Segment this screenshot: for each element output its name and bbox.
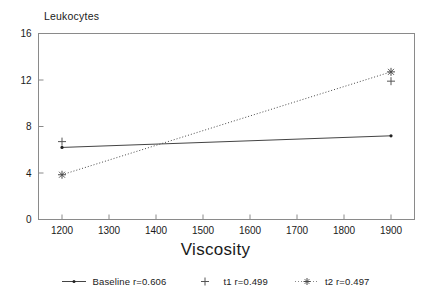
series-baseline: [60, 134, 392, 149]
x-tick-label: 1600: [239, 225, 262, 236]
legend-item-t1: t1 r=0.499: [192, 276, 268, 287]
data-series-layer: [58, 68, 395, 179]
y-tick-label: 8: [26, 121, 32, 132]
legend-key-t1-icon: [192, 276, 218, 287]
legend-key-baseline-icon: [61, 276, 87, 287]
x-tick-label: 1300: [98, 225, 121, 236]
legend-label-t1: t1 r=0.499: [223, 276, 268, 287]
y-tick-label: 16: [20, 28, 32, 39]
x-axis-ticks: 12001300140015001600170018001900: [51, 215, 403, 236]
legend-item-t2: t2 r=0.497: [294, 276, 370, 287]
x-tick-label: 1900: [380, 225, 403, 236]
series-t1: [58, 77, 395, 145]
y-tick-label: 0: [26, 214, 32, 225]
plot-frame: [39, 34, 415, 220]
x-tick-label: 1800: [333, 225, 356, 236]
data-point: [389, 134, 392, 137]
legend-label-t2: t2 r=0.497: [325, 276, 370, 287]
x-axis-title: Viscosity: [0, 240, 431, 260]
series-line: [62, 72, 391, 175]
x-tick-label: 1500: [192, 225, 215, 236]
y-tick-label: 12: [20, 75, 32, 86]
legend-key-t2-icon: [294, 276, 320, 287]
y-axis-ticks: 0481216: [20, 28, 43, 225]
x-tick-label: 1200: [51, 225, 74, 236]
legend-item-baseline: Baseline r=0.606: [61, 276, 166, 287]
series-line: [62, 136, 391, 148]
chart-figure: Leukocytes 0481216 120013001400150016001…: [0, 0, 431, 302]
y-tick-label: 4: [26, 168, 32, 179]
data-point: [60, 146, 63, 149]
chart-legend: Baseline r=0.606 t1 r=0.499: [0, 276, 431, 287]
series-t2: [58, 68, 395, 179]
x-tick-label: 1400: [145, 225, 168, 236]
legend-label-baseline: Baseline r=0.606: [92, 276, 166, 287]
x-tick-label: 1700: [286, 225, 309, 236]
